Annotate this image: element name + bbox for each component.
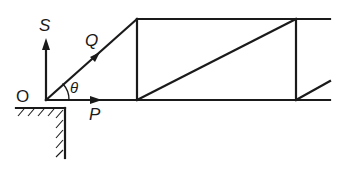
truss-diagram: S Q θ O P [0, 0, 343, 174]
diagonal-member-partial [296, 81, 330, 100]
truss-drawing [0, 0, 343, 174]
arrowhead-p-icon [90, 96, 102, 104]
label-theta: θ [70, 80, 78, 95]
label-q: Q [85, 32, 98, 49]
label-s: S [39, 17, 50, 34]
label-origin: O [16, 88, 29, 105]
diagonal-member [137, 19, 296, 100]
support-hatching [18, 109, 63, 157]
label-p: P [89, 106, 100, 123]
arrowhead-s-icon [42, 38, 50, 50]
angle-arc [63, 84, 69, 100]
